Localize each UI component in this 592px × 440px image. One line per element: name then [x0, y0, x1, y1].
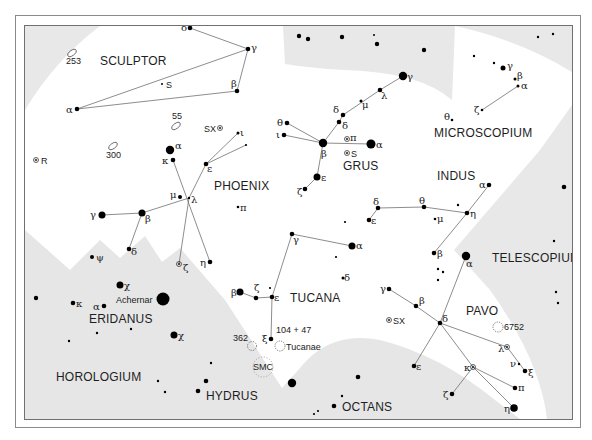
- svg-text:α: α: [356, 240, 363, 251]
- svg-text:β: β: [145, 213, 151, 224]
- label-tucana: TUCANA: [290, 291, 341, 305]
- svg-text:δ: δ: [373, 196, 379, 207]
- svg-text:η: η: [200, 257, 206, 268]
- svg-text:ι: ι: [240, 127, 244, 138]
- svg-text:362: 362: [233, 333, 248, 343]
- svg-text:ξ: ξ: [262, 333, 268, 344]
- svg-text:γ: γ: [380, 283, 386, 294]
- svg-text:β: β: [231, 287, 237, 298]
- star-chart: α β γ δ α κ ε ι λ μ β γ δ ψ ζ η π β α γ …: [0, 0, 592, 440]
- svg-text:ε: ε: [207, 163, 212, 174]
- svg-text:ε: ε: [321, 172, 326, 183]
- svg-text:μ: μ: [437, 213, 444, 224]
- svg-text:θ: θ: [419, 195, 425, 206]
- label-eridanus: ERIDANUS: [89, 312, 153, 326]
- svg-text:δ: δ: [344, 272, 350, 283]
- svg-text:ε: ε: [371, 215, 376, 226]
- svg-text:α: α: [521, 80, 528, 91]
- svg-text:SX: SX: [204, 124, 216, 134]
- svg-text:γ: γ: [251, 42, 257, 53]
- svg-text:β: β: [321, 148, 327, 159]
- svg-text:χ: χ: [178, 330, 184, 341]
- svg-text:6752: 6752: [504, 322, 524, 332]
- svg-text:θ: θ: [444, 111, 450, 122]
- svg-text:λ: λ: [381, 90, 388, 101]
- svg-text:S: S: [351, 149, 357, 159]
- svg-text:104 + 47: 104 + 47: [276, 325, 311, 335]
- svg-text:α: α: [376, 139, 383, 150]
- svg-text:π: π: [518, 382, 525, 393]
- label-grus: GRUS: [343, 159, 378, 173]
- svg-text:μ: μ: [170, 189, 177, 200]
- svg-text:253: 253: [66, 56, 81, 66]
- svg-text:γ: γ: [90, 209, 96, 220]
- svg-text:SMC: SMC: [253, 362, 274, 372]
- svg-text:γ: γ: [407, 71, 413, 82]
- svg-text:λ: λ: [191, 194, 198, 205]
- svg-text:55: 55: [172, 111, 182, 121]
- svg-text:β: β: [231, 78, 237, 89]
- svg-text:S: S: [166, 80, 172, 90]
- svg-text:ζ: ζ: [443, 389, 449, 400]
- svg-text:Tucanae: Tucanae: [286, 342, 321, 352]
- svg-text:γ: γ: [507, 60, 513, 71]
- svg-text:ψ: ψ: [96, 252, 104, 263]
- svg-text:δ: δ: [333, 104, 339, 115]
- svg-text:π: π: [240, 202, 247, 213]
- svg-text:π: π: [350, 132, 357, 143]
- svg-text:α: α: [466, 258, 473, 269]
- svg-text:α: α: [479, 179, 486, 190]
- svg-text:ζ: ζ: [474, 104, 480, 115]
- svg-text:δ: δ: [342, 120, 348, 131]
- cluster-6752-icon: [493, 322, 503, 332]
- svg-text:λ: λ: [498, 343, 505, 354]
- svg-text:SX: SX: [393, 316, 405, 326]
- svg-text:ν: ν: [510, 358, 516, 369]
- svg-text:ζ: ζ: [254, 282, 260, 293]
- galaxy-55-icon: [170, 121, 181, 131]
- svg-text:δ: δ: [181, 22, 187, 33]
- svg-text:R: R: [41, 156, 48, 166]
- label-microscopium: MICROSCOPIUM: [434, 126, 532, 140]
- svg-text:ζ: ζ: [297, 186, 303, 197]
- svg-text:Achernar: Achernar: [116, 295, 153, 305]
- svg-text:χ: χ: [124, 280, 130, 291]
- label-hydrus: HYDRUS: [206, 389, 258, 403]
- svg-text:α: α: [175, 140, 182, 151]
- svg-text:γ: γ: [293, 234, 299, 245]
- svg-text:ε: ε: [274, 292, 279, 303]
- svg-text:300: 300: [106, 150, 121, 160]
- svg-text:δ: δ: [131, 246, 137, 257]
- svg-text:δ: δ: [442, 313, 448, 324]
- svg-text:α: α: [66, 104, 73, 115]
- label-telescopium: TELESCOPIUM: [492, 251, 580, 265]
- label-horologium: HOROLOGIUM: [56, 370, 141, 384]
- svg-text:ζ: ζ: [183, 262, 189, 273]
- label-phoenix: PHOENIX: [214, 179, 269, 193]
- svg-text:κ: κ: [162, 155, 169, 166]
- svg-text:ξ: ξ: [528, 367, 534, 378]
- shaded-regions: [25, 26, 572, 419]
- svg-text:α: α: [93, 301, 100, 312]
- label-sculptor: SCULPTOR: [100, 54, 167, 68]
- svg-text:κ: κ: [76, 298, 83, 309]
- svg-text:μ: μ: [362, 99, 369, 110]
- svg-text:θ: θ: [277, 117, 283, 128]
- svg-text:η: η: [470, 208, 476, 219]
- svg-text:β: β: [437, 248, 443, 259]
- svg-text:κ: κ: [464, 362, 471, 373]
- label-indus: INDUS: [437, 169, 475, 183]
- svg-text:β: β: [419, 295, 425, 306]
- svg-text:η: η: [504, 403, 510, 414]
- cluster-47tuc-icon: [275, 341, 285, 351]
- svg-text:ε: ε: [416, 361, 421, 372]
- svg-text:ι: ι: [276, 129, 280, 140]
- label-octans: OCTANS: [342, 400, 392, 414]
- label-pavo: PAVO: [466, 304, 498, 318]
